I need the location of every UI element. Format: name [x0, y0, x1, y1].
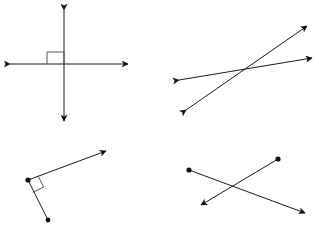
figure-intersecting-lines	[179, 26, 312, 110]
right-angle-marker-icon	[47, 52, 64, 64]
lower-segment	[28, 180, 48, 220]
geometry-figure-sheet	[0, 0, 319, 231]
upper-ray	[28, 151, 106, 180]
figure-crossing-rays	[186, 156, 305, 213]
ray-down-right	[189, 170, 305, 213]
figure-perpendicular-lines	[10, 10, 128, 121]
right-angle-marker-icon	[33, 176, 44, 192]
vertex-dot	[25, 177, 30, 182]
figures-canvas	[0, 0, 319, 231]
figure-perpendicular-ray-and-segment	[25, 151, 106, 222]
ray-down-right-origin-dot	[186, 167, 191, 172]
ray-down-left	[201, 159, 278, 205]
steep-line	[186, 26, 307, 110]
ray-down-left-origin-dot	[275, 156, 280, 161]
segment-endpoint-dot	[46, 218, 51, 223]
